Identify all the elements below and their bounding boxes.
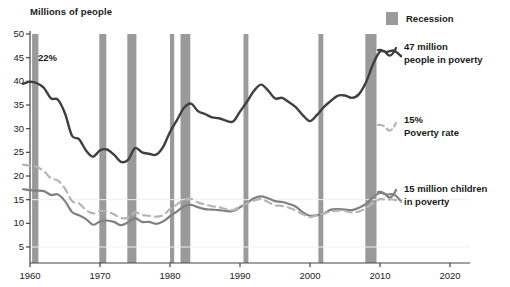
callout-poverty-rate-line2: Poverty rate (404, 127, 459, 139)
poverty-chart: Millions of people Recession 22% 47 mill… (0, 0, 510, 287)
y-axis-tick-label: 35 (2, 99, 24, 110)
recession-band (170, 34, 174, 263)
recession-legend-label: Recession (406, 13, 454, 24)
callout-people-in-poverty-line1: 47 million (404, 41, 448, 53)
callout-poverty-rate-line1: 15% (404, 114, 423, 126)
callout-children-in-poverty-line2: in poverty (404, 196, 449, 208)
y-axis-tick-label: 40 (2, 75, 24, 86)
recession-band (181, 34, 191, 263)
recession-legend-swatch (386, 12, 398, 25)
x-axis-tick-label: 2000 (290, 270, 330, 281)
x-axis-tick-label: 1980 (150, 270, 190, 281)
recession-band (318, 34, 323, 263)
recession-band (244, 34, 249, 263)
x-axis-tick-label: 1970 (80, 270, 120, 281)
callout-connector-rate-icon (378, 123, 396, 131)
y-axis-tick-label: 5 (2, 241, 24, 252)
x-axis-tick-label: 2020 (430, 270, 470, 281)
y-axis-tick-label: 10 (2, 217, 24, 228)
y-axis-tick-label: 20 (2, 170, 24, 181)
x-axis-tick-label: 1960 (10, 270, 50, 281)
y-axis-tick-label: 25 (2, 146, 24, 157)
y-axis-tick-label: 45 (2, 52, 24, 63)
callout-people-in-poverty-line2: people in poverty (404, 54, 483, 66)
recession-band (32, 34, 38, 263)
series-line-people-in-poverty (23, 50, 401, 162)
x-axis-tick-label: 2010 (360, 270, 400, 281)
y-axis-tick-label: 30 (2, 123, 24, 134)
annotation-rate-start: 22% (38, 52, 57, 63)
y-axis-tick-label: 50 (2, 28, 24, 39)
callout-children-in-poverty-line1: 15 million children (404, 183, 487, 195)
y-axis-tick-label: 15 (2, 194, 24, 205)
x-axis-tick-label: 1990 (220, 270, 260, 281)
